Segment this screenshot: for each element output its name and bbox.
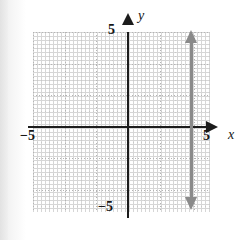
- gridline-horizontal: [33, 48, 210, 49]
- gridline-horizontal: [33, 32, 210, 33]
- gridline-vertical: [65, 32, 66, 212]
- x-axis-tick-label-negative: −5: [20, 128, 35, 144]
- grid-dotted-field: [33, 32, 210, 212]
- gridline-horizontal: [33, 111, 210, 112]
- x-axis-variable-label: x: [228, 127, 234, 143]
- gridline-horizontal: [33, 95, 210, 96]
- gridline-horizontal: [33, 80, 210, 81]
- gridline-vertical: [160, 32, 161, 212]
- gridline-vertical: [33, 32, 34, 212]
- plotted-line-arrow-down-icon: [185, 197, 197, 210]
- gridline-vertical: [144, 32, 145, 212]
- gridline-vertical: [112, 32, 113, 212]
- gridline-vertical: [49, 32, 50, 212]
- y-axis-variable-label: y: [138, 8, 144, 24]
- gridline-vertical: [96, 32, 97, 212]
- x-axis-tick-label-positive: 5: [203, 128, 210, 144]
- gridline-horizontal: [33, 142, 210, 143]
- y-axis: [127, 32, 129, 218]
- figure-canvas: 5 −5 5 −5 x y: [0, 0, 247, 240]
- y-axis-tick-label-positive: 5: [108, 22, 115, 38]
- y-axis-arrow-icon: [122, 13, 134, 25]
- gridline-vertical: [81, 32, 82, 212]
- x-axis: [28, 126, 208, 128]
- gridline-horizontal: [33, 174, 210, 175]
- gridline-horizontal: [33, 206, 210, 207]
- plotted-line-arrow-up-icon: [185, 30, 197, 43]
- y-axis-tick-label-negative: −5: [98, 199, 113, 215]
- gridline-vertical: [175, 32, 176, 212]
- gridline-horizontal: [33, 158, 210, 159]
- coordinate-plane: 5 −5 5 −5 x y: [0, 0, 247, 240]
- gridline-horizontal: [33, 190, 210, 191]
- gridline-horizontal: [33, 64, 210, 65]
- plotted-vertical-line: [190, 41, 193, 199]
- gridline-vertical: [194, 32, 195, 212]
